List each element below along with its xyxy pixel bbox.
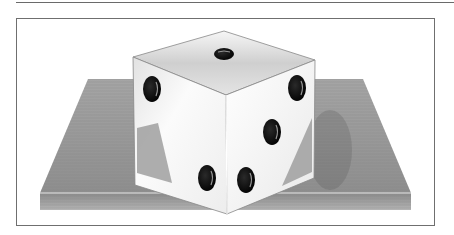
pip [263,119,281,145]
pip [214,48,234,60]
pip [237,167,255,193]
pip [143,76,161,102]
pip [288,75,306,101]
pip [198,165,216,191]
die [133,31,315,214]
dice-illustration [0,0,454,235]
